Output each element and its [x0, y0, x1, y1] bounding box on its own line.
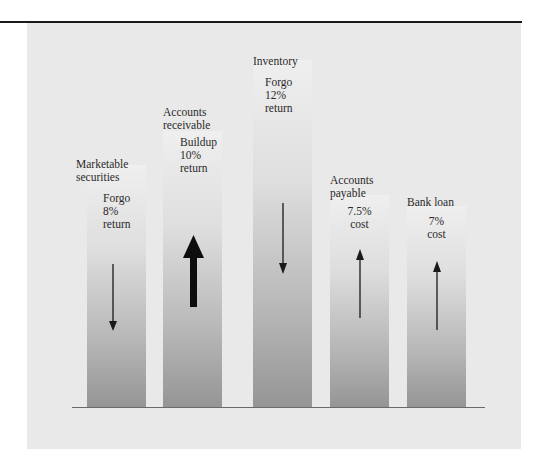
arrows-layer: [0, 0, 550, 472]
arrow-up-bank-loan: [433, 261, 441, 330]
arrow-down-inventory: [279, 203, 287, 274]
arrow-down-marketable-securities: [109, 264, 117, 331]
arrow-up-accounts-receivable-thick: [183, 235, 204, 307]
arrow-up-accounts-payable: [356, 249, 364, 318]
